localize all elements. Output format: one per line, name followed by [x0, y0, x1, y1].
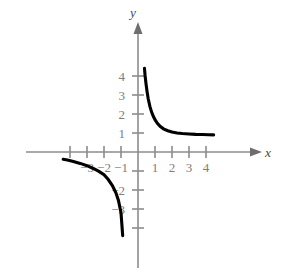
x-tick-label-plus2: 2	[169, 160, 176, 175]
y-axis-label: y	[128, 5, 136, 20]
x-tick-label-plus3: 3	[186, 160, 193, 175]
y-tick-label-plus3: 3	[119, 88, 126, 103]
graph-figure: −3 −2 −1 1 2 3 4 4 3 2 1 −2 −3 x y	[0, 0, 288, 279]
y-tick-label-plus4: 4	[119, 69, 126, 84]
coordinate-plane: −3 −2 −1 1 2 3 4 4 3 2 1 −2 −3 x y	[0, 0, 288, 279]
y-axis-arrow-icon	[134, 22, 143, 34]
curve-branch-upper-right	[144, 68, 213, 134]
x-tick-label-minus1: −1	[114, 160, 128, 175]
y-tick-label-plus1: 1	[119, 126, 126, 141]
x-axis-label: x	[264, 145, 271, 160]
x-axis-arrow-icon	[250, 148, 262, 157]
x-tick-label-plus4: 4	[203, 160, 210, 175]
x-tick-label-plus1: 1	[152, 160, 159, 175]
y-tick-label-plus2: 2	[119, 107, 126, 122]
